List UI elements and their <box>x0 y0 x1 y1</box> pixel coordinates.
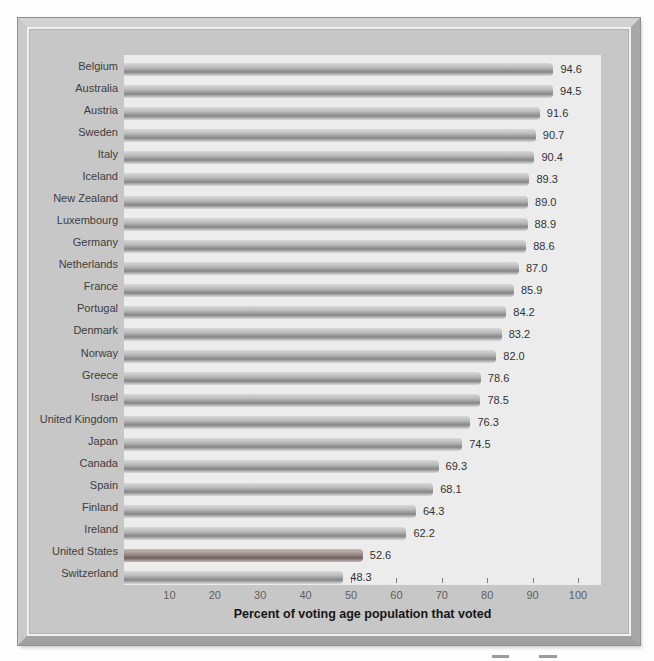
country-label: Sweden <box>30 127 124 138</box>
x-axis-tick-label: 70 <box>436 589 448 601</box>
bar <box>124 129 536 142</box>
bar-row: France 85.9 <box>30 276 601 298</box>
bar-zone: 52.6 <box>124 541 601 563</box>
bar-zone: 90.4 <box>124 143 601 165</box>
bar-row: Iceland 89.3 <box>30 165 601 187</box>
bar-zone: 82.0 <box>124 342 601 364</box>
bar-row: Austria 91.6 <box>30 99 601 121</box>
bar-row: Japan 74.5 <box>30 430 601 452</box>
value-label: 74.5 <box>469 438 490 451</box>
bar-row: Canada 69.3 <box>30 452 601 474</box>
country-label: Belgium <box>30 61 124 72</box>
bar <box>124 218 528 231</box>
value-label: 62.2 <box>413 527 434 540</box>
chart-frame: Belgium 94.6 Australia 94.5 Austria 91.6… <box>18 18 640 645</box>
bar-row: Sweden 90.7 <box>30 121 601 143</box>
country-label: France <box>30 281 124 292</box>
value-label: 89.3 <box>536 173 557 186</box>
value-label: 76.3 <box>477 416 498 429</box>
country-label: Canada <box>30 458 124 469</box>
bar-zone: 88.9 <box>124 210 601 232</box>
value-label: 88.9 <box>535 218 556 231</box>
bar <box>124 571 343 584</box>
bar-zone: 69.3 <box>124 452 601 474</box>
x-axis-tick-label: 60 <box>390 589 402 601</box>
country-label: Norway <box>30 348 124 359</box>
bar <box>124 107 540 120</box>
value-label: 83.2 <box>509 328 530 341</box>
bar <box>124 483 433 496</box>
value-label: 90.4 <box>541 151 562 164</box>
bar-row: Spain 68.1 <box>30 474 601 496</box>
bar <box>124 240 526 253</box>
bar-zone: 78.6 <box>124 364 601 386</box>
bar-row: Greece 78.6 <box>30 364 601 386</box>
bar <box>124 173 529 186</box>
x-axis-tick-label: 50 <box>345 589 357 601</box>
bar-zone: 88.6 <box>124 232 601 254</box>
bar-zone: 87.0 <box>124 254 601 276</box>
value-label: 68.1 <box>440 483 461 496</box>
x-axis-tick-label: 40 <box>299 589 311 601</box>
bar <box>124 527 406 540</box>
value-label: 78.5 <box>487 394 508 407</box>
country-label: Australia <box>30 83 124 94</box>
bar <box>124 460 439 473</box>
bar-zone: 84.2 <box>124 298 601 320</box>
bar-zone: 78.5 <box>124 386 601 408</box>
country-label: United States <box>30 546 124 557</box>
country-label: Netherlands <box>30 259 124 270</box>
value-label: 90.7 <box>543 129 564 142</box>
country-label: Greece <box>30 370 124 381</box>
value-label: 87.0 <box>526 262 547 275</box>
bar-zone: 68.1 <box>124 474 601 496</box>
x-axis-tick-labels: 102030405060708090100 <box>124 589 601 603</box>
value-label: 84.2 <box>513 306 534 319</box>
country-label: Luxembourg <box>30 215 124 226</box>
bar-row: Italy 90.4 <box>30 143 601 165</box>
bar <box>124 549 363 562</box>
figure-caption-cropped-fragment <box>539 655 557 658</box>
bar-row: Switzerland 48.3 <box>30 563 601 585</box>
bar-row: Portugal 84.2 <box>30 298 601 320</box>
x-axis-tick-label: 10 <box>163 589 175 601</box>
value-label: 48.3 <box>350 571 371 584</box>
bar-row: United Kingdom 76.3 <box>30 408 601 430</box>
value-label: 78.6 <box>488 372 509 385</box>
value-label: 85.9 <box>521 284 542 297</box>
bar-zone: 94.5 <box>124 77 601 99</box>
value-label: 88.6 <box>533 240 554 253</box>
bar <box>124 416 470 429</box>
x-axis-title: Percent of voting age population that vo… <box>124 607 601 621</box>
bar-zone: 48.3 <box>124 563 601 585</box>
bar-zone: 94.6 <box>124 55 601 77</box>
bar-zone: 64.3 <box>124 497 601 519</box>
value-label: 89.0 <box>535 196 556 209</box>
bar-row: Germany 88.6 <box>30 232 601 254</box>
country-label: Finland <box>30 502 124 513</box>
bar <box>124 438 462 451</box>
bar-row: Luxembourg 88.9 <box>30 210 601 232</box>
country-label: Portugal <box>30 303 124 314</box>
value-label: 94.6 <box>560 63 581 76</box>
country-label: New Zealand <box>30 193 124 204</box>
bar <box>124 284 514 297</box>
bar-row: United States 52.6 <box>30 541 601 563</box>
chart-canvas: Belgium 94.6 Australia 94.5 Austria 91.6… <box>30 30 628 633</box>
bar-zone: 90.7 <box>124 121 601 143</box>
value-label: 91.6 <box>547 107 568 120</box>
bar <box>124 196 528 209</box>
bar-rows: Belgium 94.6 Australia 94.5 Austria 91.6… <box>30 55 601 585</box>
country-label: Spain <box>30 480 124 491</box>
country-label: Switzerland <box>30 568 124 579</box>
bar-zone: 62.2 <box>124 519 601 541</box>
value-label: 94.5 <box>560 85 581 98</box>
bar <box>124 372 481 385</box>
bar-row: Finland 64.3 <box>30 497 601 519</box>
bar-row: Belgium 94.6 <box>30 55 601 77</box>
x-axis-tick-label: 30 <box>254 589 266 601</box>
bar-zone: 76.3 <box>124 408 601 430</box>
bar <box>124 262 519 275</box>
bar <box>124 63 553 76</box>
bar-row: New Zealand 89.0 <box>30 187 601 209</box>
